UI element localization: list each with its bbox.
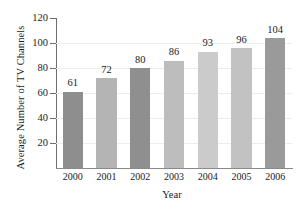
y-axis-tick-label: 20 <box>20 138 48 149</box>
x-axis-tick-label: 2001 <box>90 172 124 182</box>
bar: 96 <box>231 48 251 168</box>
bar: 72 <box>96 78 116 168</box>
bar-value-label: 86 <box>169 47 180 58</box>
bar: 80 <box>130 68 150 168</box>
bar-rect <box>164 61 184 169</box>
x-axis-tick-label: 2003 <box>157 172 191 182</box>
x-axis-line <box>56 168 293 169</box>
bar: 104 <box>265 38 285 168</box>
x-axis-tick-label: 2006 <box>258 172 292 182</box>
x-axis-tick-label: 2000 <box>56 172 90 182</box>
y-axis-tick-label: 60 <box>20 88 48 99</box>
bar-value-label: 104 <box>267 25 283 36</box>
y-axis-tick-label: 40 <box>20 113 48 124</box>
x-axis-tick-label: 2002 <box>123 172 157 182</box>
bar-rect <box>96 78 116 168</box>
bar-series: 617280869396104 <box>56 18 292 168</box>
bar-value-label: 93 <box>202 38 213 49</box>
bar-rect <box>231 48 251 168</box>
bar: 93 <box>198 52 218 168</box>
bar-value-label: 96 <box>236 35 247 46</box>
bar-value-label: 72 <box>101 65 112 76</box>
bar-rect <box>265 38 285 168</box>
bar-rect <box>63 92 83 168</box>
x-axis-title-text: Year <box>162 189 181 200</box>
bar-value-label: 61 <box>68 78 79 89</box>
y-axis-tick-label: 100 <box>20 38 48 49</box>
x-axis-title: Year <box>0 189 304 200</box>
bar-rect <box>198 52 218 168</box>
bar: 86 <box>164 61 184 169</box>
y-axis-tick-label: 80 <box>20 63 48 74</box>
bar: 61 <box>63 92 83 168</box>
y-axis-tick-label: 120 <box>20 13 48 24</box>
x-axis-tick-label: 2005 <box>225 172 259 182</box>
x-axis-tick-label: 2004 <box>191 172 225 182</box>
bar-value-label: 80 <box>135 55 146 66</box>
bar-chart: Average Number of TV Channels 2040608010… <box>0 0 304 210</box>
bar-rect <box>130 68 150 168</box>
